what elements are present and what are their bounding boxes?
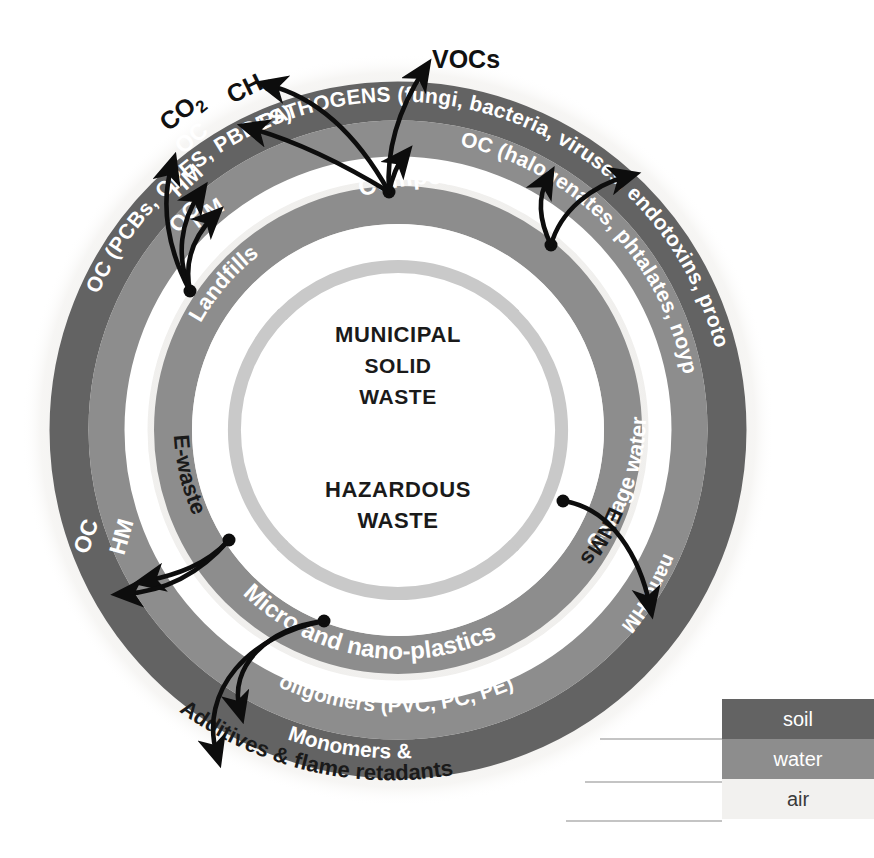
legend-item-water[interactable]: water: [722, 739, 874, 779]
legend-item-air[interactable]: air: [722, 779, 874, 819]
legend-item-soil[interactable]: soil: [722, 699, 874, 739]
center-label-hazardous: HAZARDOUS: [325, 477, 471, 502]
air-label-vocs: VOCs: [432, 45, 500, 73]
center-label-solid: SOLID: [364, 354, 431, 377]
center-label-municipal: MUNICIPAL: [335, 322, 461, 347]
center-label-waste: WASTE: [359, 385, 437, 408]
legend-label-water: water: [774, 748, 823, 771]
legend-label-soil: soil: [783, 708, 813, 731]
inner-core: [192, 224, 604, 636]
legend-label-air: air: [787, 788, 809, 811]
water-label-hm-left: HM: [122, 432, 149, 468]
legend: soil water air: [722, 699, 874, 819]
center-label-waste-2: WASTE: [357, 508, 438, 533]
